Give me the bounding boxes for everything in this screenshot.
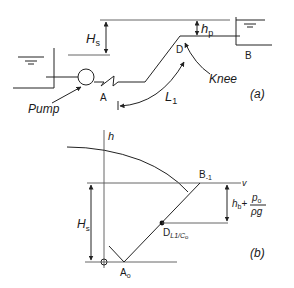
panel-b-label: (b) [250, 246, 265, 260]
pump-pointer-arrow [52, 87, 81, 103]
discharge-reservoir [236, 17, 272, 45]
suction-reservoir [13, 48, 54, 88]
point-a-label: A [100, 92, 107, 103]
fraction-numerator: po [251, 192, 262, 204]
pump-icon [78, 69, 94, 85]
hp-label: hp [201, 21, 213, 38]
pump-pipeline-diagram: Hs hp B D Knee [0, 0, 294, 288]
fraction-denominator: ρg [250, 206, 263, 217]
point-d-label-b: DL1/Co [163, 227, 189, 240]
knee-label: Knee [209, 72, 237, 86]
check-valve-icon [94, 76, 145, 86]
v-axis-label: v [242, 178, 247, 188]
knee-arrow [185, 43, 210, 74]
head-expression: hb+ [232, 198, 247, 210]
point-b-label-b: B-1 [199, 169, 212, 181]
characteristic-a-left [109, 246, 124, 262]
pump-head-curve [67, 147, 188, 192]
hs-label-b: Hs [77, 217, 90, 233]
panel-a-label: (a) [250, 87, 265, 101]
h-axis-label: h [108, 130, 114, 142]
point-d-label: D [176, 44, 183, 55]
panel-a: Hs hp B D Knee [13, 17, 272, 116]
l1-label: L1 [165, 89, 177, 106]
point-b-label: B [245, 50, 252, 61]
hs-label: Hs [86, 31, 100, 48]
point-a-label-b: Ao [120, 267, 131, 279]
panel-b: h v Hs hb+ po ρg B-1 DL1/Co Ao (b) [67, 130, 266, 279]
pump-label: Pump [28, 102, 60, 116]
